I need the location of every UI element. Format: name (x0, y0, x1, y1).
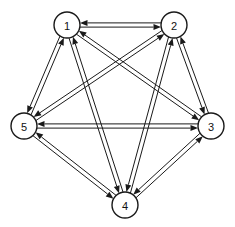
edge-1-to-2 (80, 24, 161, 30)
arrow-head-icon (180, 36, 186, 44)
edge-3-to-2 (180, 36, 208, 113)
node-circle-3[interactable] (198, 113, 224, 139)
node-circle-4[interactable] (112, 192, 138, 218)
node-3[interactable]: 3 (198, 113, 224, 139)
arrow-head-icon (191, 125, 199, 131)
arrow-head-icon (154, 24, 162, 30)
edge-shaft (177, 38, 202, 108)
edge-shaft (33, 136, 108, 194)
edge-5-to-3 (37, 125, 198, 131)
arrow-head-icon (72, 37, 78, 45)
graph-diagram: 12345 (0, 0, 235, 227)
edge-4-to-5 (36, 132, 117, 195)
edge-5-to-1 (31, 38, 64, 115)
edge-4-to-3 (136, 136, 203, 197)
node-1[interactable]: 1 (54, 12, 80, 38)
edge-shaft (41, 137, 116, 195)
edge-shaft (136, 141, 197, 197)
node-circle-1[interactable] (54, 12, 80, 38)
graph-canvas: 12345 (0, 0, 235, 227)
edge-shaft (40, 31, 162, 113)
edge-shaft (30, 36, 60, 106)
edge-shaft (31, 45, 61, 115)
edge-2-to-3 (177, 38, 205, 115)
edge-4-to-1 (72, 37, 123, 192)
edge-layer (27, 20, 208, 199)
edge-2-to-1 (80, 20, 161, 26)
edge-3-to-5 (37, 121, 198, 127)
edge-shaft (183, 44, 208, 114)
node-4[interactable]: 4 (112, 192, 138, 218)
arrow-head-icon (168, 38, 174, 46)
edge-3-to-4 (133, 133, 200, 194)
edge-1-to-5 (27, 36, 60, 113)
node-5[interactable]: 5 (11, 113, 37, 139)
edge-shaft (128, 37, 168, 185)
node-circle-5[interactable] (11, 113, 37, 139)
arrow-head-icon (156, 34, 164, 41)
arrow-head-icon (125, 184, 131, 192)
arrow-head-icon (34, 110, 42, 117)
edge-shaft (76, 34, 193, 116)
edge-shaft (139, 133, 200, 189)
edge-5-to-4 (33, 136, 114, 199)
arrow-head-icon (199, 106, 205, 114)
arrow-head-icon (114, 185, 120, 193)
node-circle-2[interactable] (161, 12, 187, 38)
node-2[interactable]: 2 (161, 12, 187, 38)
arrow-head-icon (80, 20, 88, 26)
arrow-head-icon (37, 121, 45, 127)
